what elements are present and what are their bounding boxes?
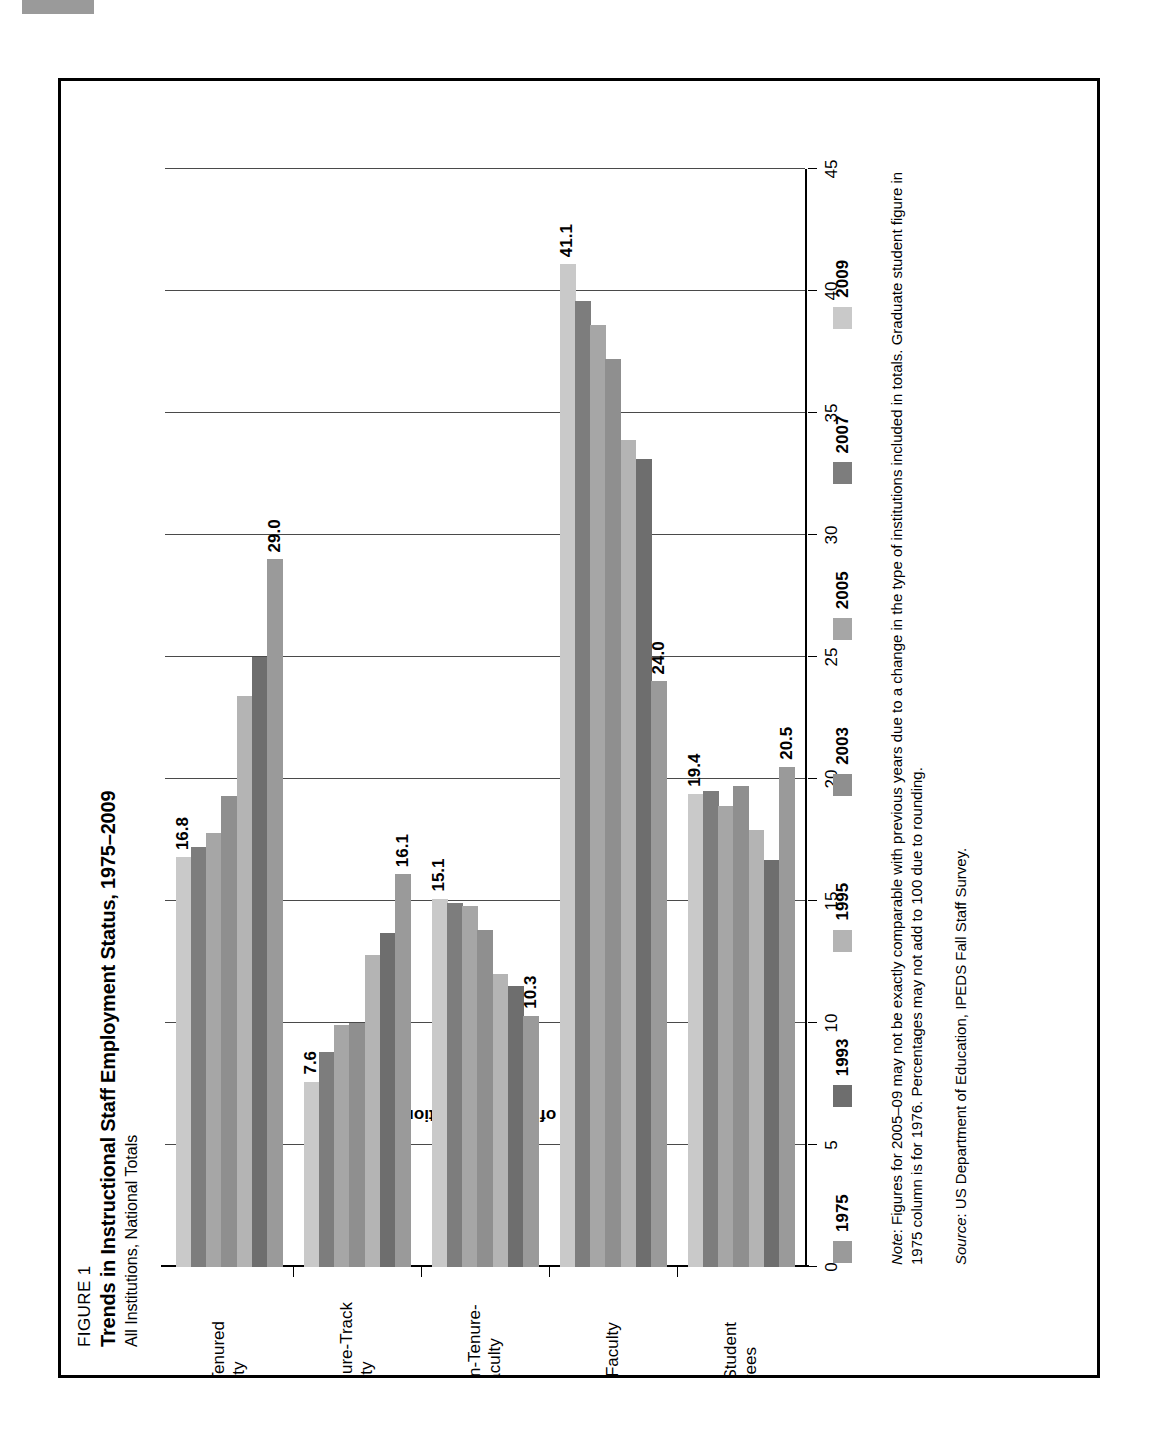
bar-value-label: 10.3 — [521, 976, 541, 1009]
bar-2007 — [319, 1052, 335, 1267]
gridline — [165, 534, 805, 535]
legend-swatch-icon — [833, 307, 852, 329]
category-label: Full-Time TenuredFaculty — [209, 1281, 250, 1375]
category-label: Full-Time Non-Tenure-Track Faculty — [465, 1281, 506, 1375]
chart-plot-area: Percent of Total Instructional Staff 051… — [165, 169, 805, 1267]
bar-1995 — [493, 974, 509, 1267]
bar-1993 — [380, 933, 396, 1267]
bar-2003 — [349, 1023, 365, 1267]
category-group-separator — [293, 1267, 294, 1277]
bar-2009 — [560, 264, 576, 1267]
legend-swatch-icon — [833, 462, 852, 484]
category-label-line: Full-Time Tenure-Track — [337, 1281, 358, 1375]
legend-swatch-icon — [833, 1241, 852, 1263]
bar-1995 — [749, 830, 765, 1267]
source-prefix: Source — [952, 1217, 969, 1265]
category-label-line: Employees — [741, 1281, 762, 1375]
bar-1993 — [636, 459, 652, 1267]
category-axis-line — [805, 169, 807, 1267]
axis-tick — [808, 1266, 817, 1267]
legend-label: 2003 — [834, 727, 851, 765]
category-label-line: Faculty — [229, 1281, 250, 1375]
axis-tick — [808, 656, 817, 657]
category-group-separator — [677, 1267, 678, 1277]
bar-1993 — [252, 657, 268, 1267]
note-prefix: Note — [888, 1233, 905, 1265]
bar-value-label: 24.0 — [649, 641, 669, 674]
legend-swatch-icon — [833, 1085, 852, 1107]
legend-item-1975[interactable]: 1975 — [833, 1194, 852, 1263]
legend-swatch-icon — [833, 774, 852, 796]
bar-1993 — [764, 860, 780, 1267]
figure-title: Trends in Instructional Staff Employment… — [97, 791, 120, 1347]
axis-tick — [808, 412, 817, 413]
bar-1975 — [395, 874, 411, 1267]
bar-2003 — [477, 930, 493, 1267]
bar-1975 — [267, 559, 283, 1267]
legend-label: 2005 — [834, 571, 851, 609]
legend-label: 2007 — [834, 416, 851, 454]
bar-value-label: 41.1 — [557, 224, 577, 257]
axis-tick — [808, 1022, 817, 1023]
bar-2005 — [462, 906, 478, 1267]
legend-label: 1993 — [834, 1038, 851, 1076]
bar-1993 — [508, 986, 524, 1267]
bar-value-label: 16.8 — [173, 817, 193, 850]
gridline — [165, 168, 805, 169]
bar-value-label: 15.1 — [429, 858, 449, 891]
bar-value-label: 19.4 — [685, 754, 705, 787]
legend-item-1993[interactable]: 1993 — [833, 1038, 852, 1107]
legend-item-1995[interactable]: 1995 — [833, 883, 852, 952]
category-label: Full-Time Tenure-TrackFaculty — [337, 1281, 378, 1375]
category-label-line: Full-Time Tenured — [209, 1281, 230, 1375]
bar-2009 — [432, 899, 448, 1267]
legend-swatch-icon — [833, 930, 852, 952]
category-label-line: Track Faculty — [485, 1281, 506, 1375]
bar-2005 — [590, 325, 606, 1267]
bar-2009 — [688, 794, 704, 1267]
legend-item-2003[interactable]: 2003 — [833, 727, 852, 796]
axis-tick — [808, 1144, 817, 1145]
bar-2007 — [447, 903, 463, 1267]
bar-1975 — [779, 767, 795, 1267]
gridline — [165, 290, 805, 291]
axis-tick — [808, 168, 817, 169]
bar-value-label: 29.0 — [265, 519, 285, 552]
rotated-figure-stage: FIGURE 1 Trends in Instructional Staff E… — [61, 81, 1097, 1375]
bar-value-label: 20.5 — [777, 727, 797, 760]
category-label-line: Part-Time Faculty — [603, 1281, 624, 1375]
bar-2009 — [176, 857, 192, 1267]
axis-tick — [808, 900, 817, 901]
gridline — [165, 412, 805, 413]
bar-2003 — [733, 786, 749, 1267]
bar-2007 — [191, 847, 207, 1267]
bar-value-label: 16.1 — [393, 834, 413, 867]
bar-1975 — [523, 1016, 539, 1267]
legend-label: 2009 — [834, 260, 851, 298]
category-label-line: Graduate Student — [721, 1281, 742, 1375]
figure-subtitle: All Institutions, National Totals — [123, 1135, 141, 1347]
bar-2007 — [703, 791, 719, 1267]
legend-item-2005[interactable]: 2005 — [833, 571, 852, 640]
chart-canvas: 051015202530354045Full-Time TenuredFacul… — [165, 169, 805, 1267]
category-group-separator — [549, 1267, 550, 1277]
bar-2005 — [334, 1025, 350, 1267]
category-label-line: Full-Time Non-Tenure- — [465, 1281, 486, 1375]
axis-tick — [808, 534, 817, 535]
figure-frame: FIGURE 1 Trends in Instructional Staff E… — [58, 78, 1100, 1378]
legend-item-2009[interactable]: 2009 — [833, 260, 852, 329]
figure-source: Source: US Department of Education, IPED… — [951, 155, 971, 1265]
bar-1995 — [621, 440, 637, 1267]
chart-legend: 1975199319952003200520072009 — [833, 173, 859, 1263]
bar-1975 — [651, 681, 667, 1267]
bar-2005 — [206, 833, 222, 1267]
legend-item-2007[interactable]: 2007 — [833, 416, 852, 485]
bar-1995 — [365, 955, 381, 1267]
category-group-separator — [421, 1267, 422, 1277]
legend-swatch-icon — [833, 618, 852, 640]
category-label: Graduate StudentEmployees — [721, 1281, 762, 1375]
figure-content: FIGURE 1 Trends in Instructional Staff E… — [61, 81, 1097, 1375]
bar-1995 — [237, 696, 253, 1267]
figure-note: Note: Figures for 2005–09 may not be exa… — [887, 155, 927, 1265]
category-label-line: Faculty — [357, 1281, 378, 1375]
